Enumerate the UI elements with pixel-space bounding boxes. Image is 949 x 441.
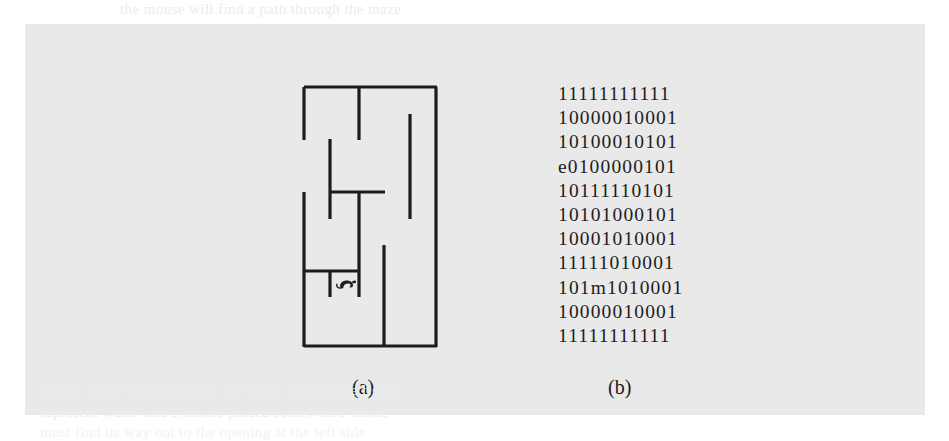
matrix-row: e0100000101 (558, 155, 683, 179)
matrix-row: 11111111111 (558, 324, 683, 348)
figure-plate: 111111111111000001000110100010101e010000… (25, 24, 925, 415)
bleed-text-line1: Figure 2 The maze problem. the black lin… (40, 382, 400, 399)
caption-panel-b: (b) (608, 376, 631, 399)
matrix-row: 10111110101 (558, 179, 683, 203)
matrix-row: 10100010101 (558, 130, 683, 154)
bleed-text-line3: must find its way out to the opening at … (40, 424, 366, 441)
matrix-row: 11111111111 (558, 82, 683, 106)
matrix-row: 10001010001 (558, 227, 683, 251)
matrix-row: 11111010001 (558, 251, 683, 275)
matrix-row: 10000010001 (558, 106, 683, 130)
mouse-icon (337, 280, 356, 288)
maze-panel (279, 63, 449, 353)
figure-page: the mouse will find a path through the m… (0, 0, 949, 441)
matrix-row: 10101000101 (558, 203, 683, 227)
matrix-row: 10000010001 (558, 300, 683, 324)
bleed-text-top: the mouse will find a path through the m… (120, 1, 401, 18)
bleed-text-line2: represent walls. and a mouse placed some… (40, 404, 388, 421)
binary-matrix: 111111111111000001000110100010101e010000… (558, 82, 683, 348)
maze-drawing (279, 63, 449, 353)
matrix-row: 101m1010001 (558, 276, 683, 300)
